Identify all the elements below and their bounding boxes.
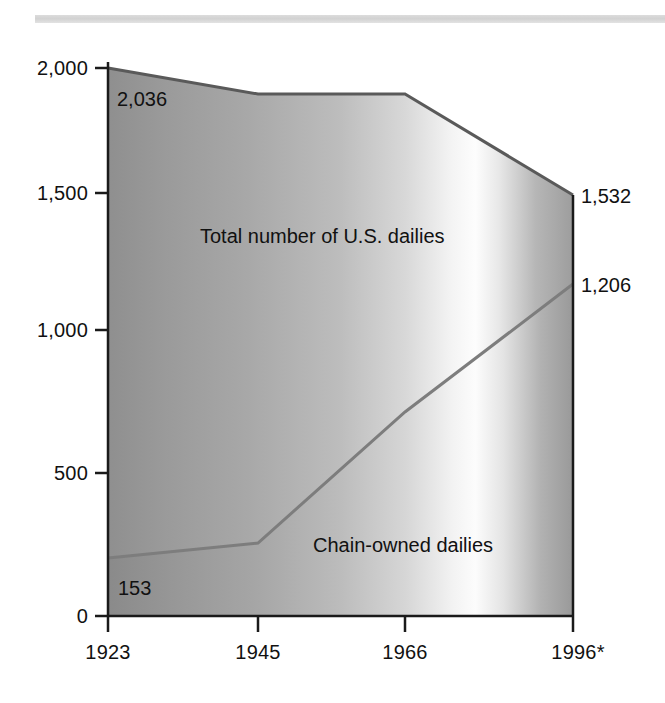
x-tick-label-1945: 1945	[235, 641, 280, 664]
value-label-2036: 2,036	[117, 88, 167, 111]
plot-area: 2,000 1,500 1,000 500 0 1923 1945 1966 1…	[0, 0, 665, 703]
y-tick-label-500: 500	[0, 462, 88, 485]
series-label-chain-owned-dailies: Chain-owned dailies	[313, 534, 493, 557]
chart-figure: 2,000 1,500 1,000 500 0 1923 1945 1966 1…	[0, 0, 665, 703]
value-label-1206: 1,206	[581, 274, 631, 297]
value-label-1532: 1,532	[581, 185, 631, 208]
x-tick-label-1996: 1996*	[551, 641, 604, 664]
series-label-total-dailies: Total number of U.S. dailies	[200, 225, 445, 248]
x-tick-label-1966: 1966	[382, 641, 427, 664]
x-tick-label-1923: 1923	[85, 641, 130, 664]
y-tick-label-0: 0	[0, 605, 88, 628]
y-tick-label-1000: 1,000	[0, 319, 88, 342]
value-label-153: 153	[118, 577, 151, 600]
chart-canvas	[0, 0, 665, 703]
y-tick-label-1500: 1,500	[0, 182, 88, 205]
y-tick-label-2000: 2,000	[0, 57, 88, 80]
